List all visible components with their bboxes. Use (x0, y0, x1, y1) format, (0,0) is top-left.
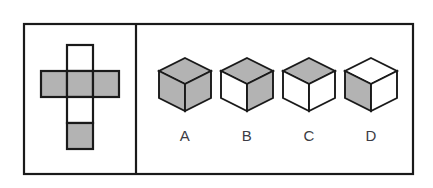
net-cell-rect (67, 71, 93, 97)
net-cell-lower (67, 97, 93, 123)
option-label-a: A (180, 127, 190, 144)
net-cell-middle-center (67, 71, 93, 97)
figure-canvas: A B C D (0, 0, 433, 188)
net-cell-rect (93, 71, 119, 97)
net-cell-rect (67, 97, 93, 123)
net-cell-middle-left (41, 71, 67, 97)
option-label-d: D (365, 127, 376, 144)
net-cell-bottom (67, 123, 93, 149)
net-cell-top (67, 45, 93, 71)
net-cell-middle-right (93, 71, 119, 97)
net-cell-rect (41, 71, 67, 97)
net-cell-rect (67, 45, 93, 71)
option-label-b: B (242, 127, 252, 144)
net-cell-rect (67, 123, 93, 149)
option-label-c: C (303, 127, 314, 144)
